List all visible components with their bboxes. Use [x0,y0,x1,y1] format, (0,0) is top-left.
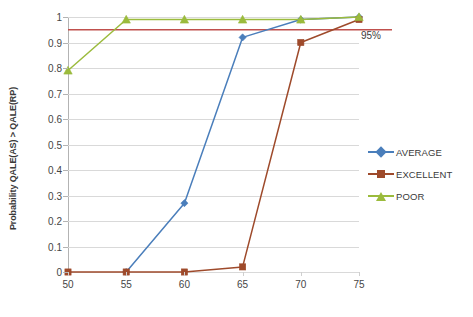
x-axis-tick-label: 70 [295,279,306,290]
x-axis-tick-label: 50 [62,279,73,290]
threshold-label: 95% [361,30,381,41]
data-point [298,39,304,45]
y-axis-tick-label: 0.9 [48,37,62,48]
x-axis-tick-label: 65 [237,279,248,290]
series-layer [68,17,359,272]
series-line [68,20,359,272]
legend-item-average[interactable]: AVERAGE [368,146,452,158]
plot-area [68,17,359,272]
y-axis-tick-label: 0.6 [48,114,62,125]
y-axis-tick-mark [63,68,68,69]
series-line [126,17,359,272]
y-axis-tick-mark [63,145,68,146]
y-axis-title: Probability QALE(AS) > QALE(RP) [0,0,26,317]
y-axis-tick-mark [63,94,68,95]
y-axis-tick-label: 0.2 [48,216,62,227]
y-axis-tick-label: 0.7 [48,88,62,99]
legend-item-excellent[interactable]: EXCELLENT [368,168,452,180]
y-axis-tick-label: 0.4 [48,165,62,176]
y-axis-tick-mark [63,221,68,222]
legend-label: POOR [396,191,424,202]
legend-swatch-diamond-icon [368,146,394,158]
legend-label: EXCELLENT [396,169,452,180]
series-average [123,13,363,275]
series-excellent [65,16,362,275]
y-axis-tick-mark [63,43,68,44]
y-axis-tick-mark [63,17,68,18]
y-axis-tick-label: 0.3 [48,190,62,201]
x-axis-tick-mark [359,272,360,276]
x-axis-tick-labels: 505560657075 [68,279,359,299]
y-axis-tick-mark [63,119,68,120]
y-axis-tick-mark [63,247,68,248]
y-axis-tick-label: 0.1 [48,241,62,252]
x-axis-tick-label: 75 [353,279,364,290]
chart-legend: AVERAGEEXCELLENTPOOR [368,146,452,202]
x-axis-tick-mark [184,272,185,276]
y-axis-tick-mark [63,196,68,197]
legend-label: AVERAGE [396,147,442,158]
legend-swatch-square-icon [368,168,394,180]
x-axis-tick-label: 55 [121,279,132,290]
x-axis-tick-mark [301,272,302,276]
line-chart: Probability QALE(AS) > QALE(RP) 00.10.20… [0,0,473,317]
y-axis-tick-label: 1 [56,12,62,23]
y-axis-tick-label: 0 [56,267,62,278]
legend-item-poor[interactable]: POOR [368,190,452,202]
y-axis-tick-label: 0.5 [48,139,62,150]
x-axis-tick-mark [126,272,127,276]
x-axis-tick-mark [243,272,244,276]
y-axis-tick-label: 0.8 [48,63,62,74]
legend-swatch-triangle-icon [368,190,394,202]
y-axis-tick-labels: 00.10.20.30.40.50.60.70.80.91 [30,17,62,272]
series-line [68,17,359,71]
x-axis-tick-mark [68,272,69,276]
data-point [240,264,246,270]
y-axis-tick-mark [63,170,68,171]
x-axis-tick-label: 60 [179,279,190,290]
series-poor [64,13,363,74]
data-point [239,34,246,41]
